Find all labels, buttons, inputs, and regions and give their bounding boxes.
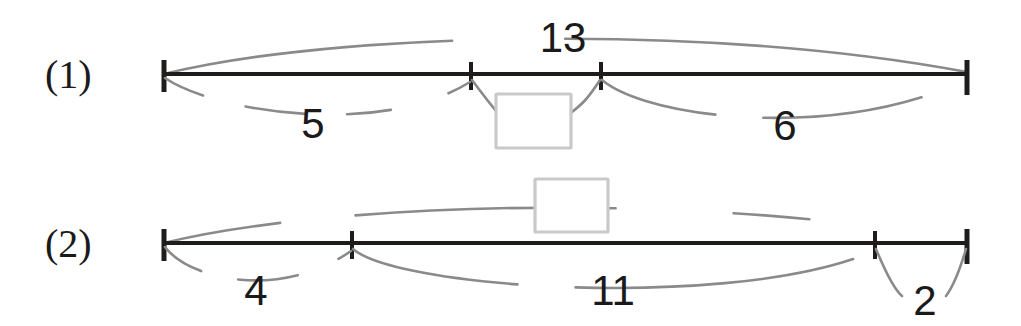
problem-2-segment-right-arc-left (876, 249, 902, 296)
problem-1-segment-left-value: 5 (301, 100, 324, 147)
problem-row-1: (1) 13 5 6 (45, 14, 968, 149)
answer-box-2[interactable] (535, 179, 608, 232)
problem-1-segment-right-value: 6 (773, 102, 796, 149)
problem-row-2: (2) 4 11 2 (45, 179, 968, 324)
worksheet-diagram: (1) 13 5 6 (2) (0, 0, 1021, 326)
problem-2-segment-left-value: 4 (244, 267, 267, 314)
answer-box-1[interactable] (496, 94, 571, 148)
problem-1-total-value: 13 (540, 14, 587, 61)
problem-2-segment-middle-value: 11 (591, 267, 635, 314)
problem-1-segment-middle-arc-left (472, 80, 497, 112)
diagram-canvas: (1) 13 5 6 (2) (0, 0, 1021, 326)
problem-1-label: (1) (45, 52, 92, 97)
problem-2-label: (2) (45, 221, 92, 266)
problem-1-segment-middle-arc-right (572, 80, 600, 112)
problem-2-segment-right-value: 2 (913, 277, 936, 324)
problem-2-segment-right-arc-right (946, 249, 966, 296)
